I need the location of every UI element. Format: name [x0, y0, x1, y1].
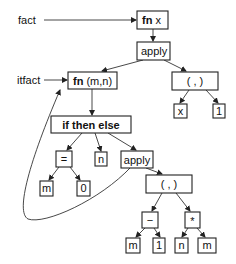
edge-apply-to-pair [164, 60, 186, 71]
edge-minus-to-m [136, 228, 145, 237]
node-minus: − [142, 212, 158, 228]
svg-text:m: m [202, 239, 211, 251]
node-pair-top: ( , ) [172, 72, 218, 90]
svg-text:( , ): ( , ) [161, 178, 178, 190]
edge-pair-to-times [176, 193, 190, 211]
node-times: * [185, 212, 200, 228]
edge-eq-to-0 [70, 167, 80, 180]
edge-times-to-n [182, 228, 188, 237]
svg-text:1: 1 [156, 239, 162, 251]
node-apply-inner: apply [121, 151, 153, 168]
svg-text:1: 1 [216, 105, 222, 117]
edge-recursive-loop [23, 90, 131, 220]
edge-ite-to-n [95, 133, 101, 151]
svg-text:x: x [178, 105, 184, 117]
svg-text:m: m [42, 182, 51, 194]
svg-text:apply: apply [141, 45, 168, 57]
node-n-leaf: n [95, 152, 107, 166]
svg-text:if then else: if then else [62, 119, 119, 131]
edge-apply-to-pair-inner [146, 168, 162, 174]
edge-times-to-m [197, 228, 205, 237]
edge-minus-to-1 [154, 228, 160, 237]
node-pair-inner: ( , ) [146, 175, 192, 193]
node-x-leaf: x [174, 104, 187, 118]
label-itfact: itfact [17, 74, 40, 86]
node-m-leaf-minus: m [126, 238, 140, 253]
svg-text:*: * [190, 215, 195, 227]
svg-text:n: n [98, 153, 104, 165]
fn-keyword: fn [142, 14, 153, 26]
label-fact: fact [18, 14, 36, 26]
node-m-leaf-eq: m [40, 181, 53, 196]
node-one-leaf-minus: 1 [153, 238, 165, 253]
svg-text:fn (m,n): fn (m,n) [73, 75, 112, 87]
edge-pair-to-minus [152, 193, 162, 211]
node-one-leaf-top: 1 [213, 104, 225, 118]
node-if-then-else: if then else [51, 116, 131, 133]
svg-text:m: m [128, 239, 137, 251]
edge-eq-to-m [49, 167, 59, 180]
node-equals: = [56, 151, 72, 167]
node-n-leaf-times: n [175, 238, 188, 253]
node-fn-mn: fn (m,n) [68, 72, 117, 89]
expression-tree-diagram: fact itfact fn x apply fn (m,n) ( , ) x … [0, 0, 236, 264]
edge-pair-to-1 [206, 90, 218, 103]
edge-pair-to-x [180, 90, 189, 103]
svg-text:=: = [61, 153, 67, 165]
svg-text:0: 0 [80, 182, 86, 194]
edge-apply-to-fnmn [102, 60, 143, 71]
fn-keyword: fn [73, 75, 84, 87]
node-fn-x: fn x [137, 11, 168, 29]
svg-text:( , ): ( , ) [187, 75, 204, 87]
svg-text:n: n [178, 239, 184, 251]
node-zero-leaf: 0 [77, 181, 90, 196]
svg-text:fn x: fn x [142, 14, 161, 26]
svg-text:apply: apply [124, 154, 151, 166]
node-m-leaf-times: m [198, 238, 216, 253]
node-apply-top: apply [137, 42, 170, 60]
edge-ite-to-eq [67, 133, 82, 150]
edge-ite-to-apply [108, 133, 136, 150]
svg-text:−: − [147, 214, 153, 226]
